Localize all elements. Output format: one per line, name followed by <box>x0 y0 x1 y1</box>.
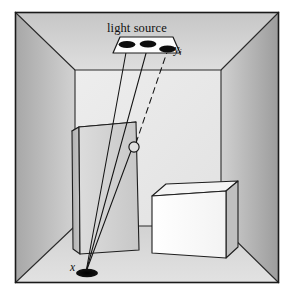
tall-box <box>72 122 139 254</box>
shading-point-label-x: x <box>70 262 75 274</box>
scene-illustration <box>0 0 294 299</box>
light-sample-label-yi: yi <box>174 43 182 57</box>
lamp-icon-2 <box>140 41 157 48</box>
yi-subscript: i <box>179 47 181 57</box>
ceiling-light-fixture <box>113 37 180 53</box>
cube <box>152 181 238 258</box>
cube-right-face <box>226 181 238 258</box>
lamp-icon-1 <box>119 41 136 48</box>
shading-point-x-marker <box>76 269 98 278</box>
cube-front-face <box>152 191 226 258</box>
figure-root: light source yi x <box>0 0 294 299</box>
light-source-label: light source <box>107 22 167 35</box>
occlusion-marker-icon <box>129 142 139 152</box>
